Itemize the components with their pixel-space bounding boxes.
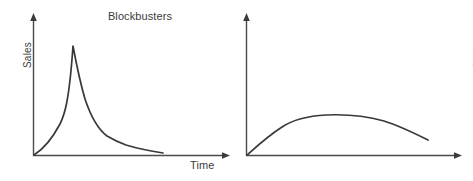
y-axis-arrowhead [243, 13, 250, 21]
chart-panel-connoisseur: Connoisseur products Sales Time [236, 0, 473, 181]
blockbusters-curve [34, 46, 163, 155]
x-axis-label-blockbusters: Time [190, 159, 214, 171]
y-axis-arrowhead [30, 13, 37, 21]
blockbusters-plot [0, 0, 236, 181]
x-axis-arrowhead [454, 152, 462, 159]
connoisseur-plot [236, 0, 473, 181]
product-lifecycle-figure: Blockbusters Sales Time Connoisseur prod… [0, 0, 473, 181]
chart-title-blockbusters: Blockbusters [84, 10, 196, 23]
chart-panel-blockbusters: Blockbusters Sales Time [0, 0, 236, 181]
y-axis-label-blockbusters: Sales [22, 42, 33, 68]
connoisseur-curve [247, 115, 428, 155]
x-axis-arrowhead [222, 152, 230, 159]
